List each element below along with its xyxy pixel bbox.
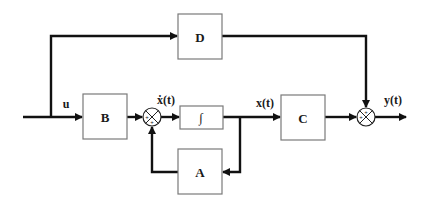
sum2-sign-top: +: [364, 109, 368, 115]
signal-xdot-label: ẋ(t): [157, 93, 175, 107]
block-C-label: C: [298, 111, 307, 126]
block-integrator: ∫: [180, 106, 223, 129]
block-C: C: [281, 95, 325, 140]
state-space-block-diagram: D B ∫ A C + + + + u ẋ(t) x(t) y(t): [0, 0, 427, 206]
sum2-sign-left: +: [359, 114, 363, 120]
signal-u-label: u: [63, 97, 70, 111]
wire-state-to-A: [223, 117, 240, 172]
sum-junction-2: + +: [357, 108, 375, 126]
signal-x-label: x(t): [256, 96, 274, 110]
block-D: D: [178, 14, 222, 59]
sum1-sign-bottom: +: [150, 119, 154, 125]
sum-junction-1: + +: [143, 108, 161, 126]
block-B: B: [83, 94, 127, 139]
signal-y-label: y(t): [384, 93, 402, 107]
block-A-label: A: [195, 165, 205, 180]
block-A: A: [178, 149, 222, 194]
block-B-label: B: [101, 110, 110, 125]
wire-A-to-sum1: [152, 127, 178, 172]
block-D-label: D: [195, 30, 204, 45]
sum1-sign-left: +: [145, 114, 149, 120]
